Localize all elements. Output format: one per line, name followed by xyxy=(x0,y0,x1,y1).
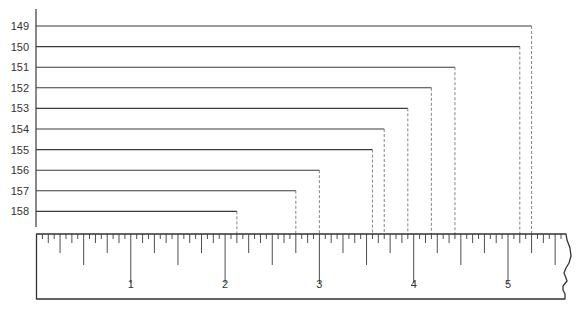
measurement-row: 149 xyxy=(11,20,532,234)
inch-label: 3 xyxy=(316,278,322,290)
inch-label: 5 xyxy=(505,278,511,290)
ruler-measurement-diagram: 149150151152153154155156157158 12345 xyxy=(0,0,580,309)
measurement-row: 150 xyxy=(11,41,520,234)
measurement-row: 158 xyxy=(11,205,237,234)
row-label: 156 xyxy=(11,164,29,176)
diagram-canvas: 149150151152153154155156157158 12345 xyxy=(0,0,580,309)
measurement-row: 156 xyxy=(11,164,320,234)
measurement-row: 151 xyxy=(11,61,455,234)
ruler-body xyxy=(37,234,572,299)
row-label: 152 xyxy=(11,82,29,94)
row-label: 150 xyxy=(11,41,29,53)
measurement-row: 155 xyxy=(11,144,373,234)
measurement-rows: 149150151152153154155156157158 xyxy=(11,20,532,234)
measurement-row: 157 xyxy=(11,185,296,234)
row-label: 154 xyxy=(11,123,29,135)
row-label: 149 xyxy=(11,20,29,32)
inch-label: 4 xyxy=(411,278,417,290)
row-label: 157 xyxy=(11,185,29,197)
measurement-row: 154 xyxy=(11,123,385,234)
measurement-row: 153 xyxy=(11,102,408,234)
ruler: 12345 xyxy=(37,234,572,299)
row-label: 151 xyxy=(11,61,29,73)
row-label: 158 xyxy=(11,205,29,217)
inch-label: 1 xyxy=(128,278,134,290)
inch-label: 2 xyxy=(222,278,228,290)
row-label: 155 xyxy=(11,144,29,156)
row-label: 153 xyxy=(11,102,29,114)
